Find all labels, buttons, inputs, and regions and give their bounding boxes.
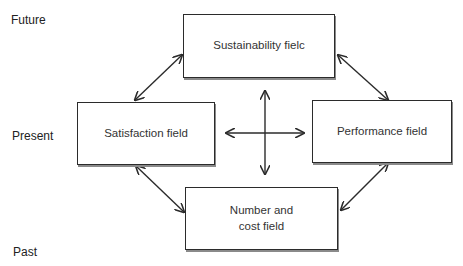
satisfaction-field-box: Satisfaction field	[77, 102, 215, 165]
sustainability-field-label: Sustainability fielc	[213, 38, 304, 54]
number-cost-field-label-line2: cost field	[239, 219, 284, 235]
arrow-satisfaction-number-cost	[136, 166, 184, 212]
arrow-sustainability-performance	[338, 55, 388, 100]
number-cost-field-box: Number and cost field	[185, 187, 338, 250]
satisfaction-field-label: Satisfaction field	[104, 126, 188, 142]
performance-field-label: Performance field	[337, 124, 427, 140]
performance-field-box: Performance field	[312, 100, 452, 163]
arrow-performance-number-cost	[341, 163, 388, 210]
sustainability-field-box: Sustainability fielc	[183, 14, 335, 78]
number-cost-field-label-line1: Number and	[230, 203, 293, 219]
arrow-sustainability-satisfaction	[135, 55, 182, 100]
